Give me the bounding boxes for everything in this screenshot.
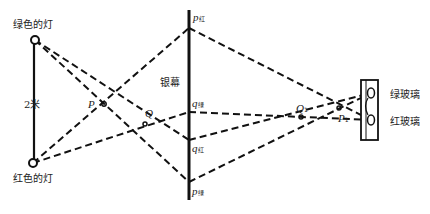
label-green-glass: 绿玻璃 bbox=[390, 90, 420, 100]
ray-green-to-q-red bbox=[35, 40, 189, 140]
ray-red-to-q-green bbox=[33, 112, 189, 163]
label-green-lamp: 绿色的灯 bbox=[13, 20, 53, 30]
ray-p-red-to-red-glass bbox=[189, 28, 371, 120]
label-p-green: p绿 bbox=[192, 186, 204, 197]
label-Q1: Q1 bbox=[296, 103, 308, 114]
ray-green-to-p-green bbox=[35, 40, 189, 182]
label-red-glass: 红玻璃 bbox=[390, 117, 420, 127]
label-distance: 2米 bbox=[24, 100, 40, 110]
ray-red-to-p-red bbox=[33, 28, 189, 163]
diagram-canvas bbox=[0, 0, 430, 214]
label-Q: Q bbox=[145, 108, 153, 119]
label-q-red: q红 bbox=[192, 143, 204, 154]
green-lamp-icon bbox=[31, 36, 39, 44]
green-glass-lens-icon bbox=[368, 88, 375, 98]
red-lamp-icon bbox=[29, 159, 37, 167]
label-red-lamp: 红色的灯 bbox=[13, 174, 53, 184]
label-q-green: q绿 bbox=[192, 98, 204, 109]
label-P: P bbox=[88, 99, 95, 110]
point-Q-marker bbox=[143, 122, 147, 126]
red-glass-lens-icon bbox=[368, 115, 375, 125]
ray-p-green-to-green-glass bbox=[189, 93, 371, 182]
label-P1: P1 bbox=[338, 113, 349, 124]
label-p-red: p红 bbox=[193, 12, 205, 23]
label-screen: 银幕 bbox=[160, 78, 180, 88]
